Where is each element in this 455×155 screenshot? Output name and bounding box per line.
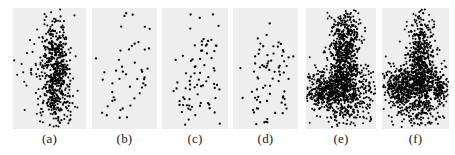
scatter-points-c: [162, 8, 228, 129]
panel-caption: (b): [92, 131, 157, 147]
scatter-panel-d: (d): [233, 0, 298, 155]
scatter-points-b: [92, 8, 157, 129]
scatter-points-e: [306, 8, 376, 129]
plot-area-a: [13, 8, 86, 129]
scatter-panel-f: (f): [382, 0, 449, 155]
plot-area-d: [233, 8, 298, 129]
panel-caption: (c): [162, 131, 228, 147]
panel-caption: (a): [13, 131, 86, 147]
panel-caption: (e): [306, 131, 376, 147]
panel-caption: (d): [233, 131, 298, 147]
scatter-panel-a: (a): [13, 0, 86, 155]
scatter-panel-b: (b): [92, 0, 157, 155]
plot-area-e: [306, 8, 376, 129]
panel-caption: (f): [382, 131, 449, 147]
scatter-panel-e: (e): [306, 0, 376, 155]
plot-area-c: [162, 8, 228, 129]
scatter-points-f: [382, 8, 449, 129]
scatter-panel-c: (c): [162, 0, 228, 155]
plot-area-b: [92, 8, 157, 129]
scatter-figure: (a)(b)(c)(d)(e)(f): [0, 0, 455, 155]
scatter-points-a: [13, 8, 86, 129]
plot-area-f: [382, 8, 449, 129]
scatter-points-d: [233, 8, 298, 129]
